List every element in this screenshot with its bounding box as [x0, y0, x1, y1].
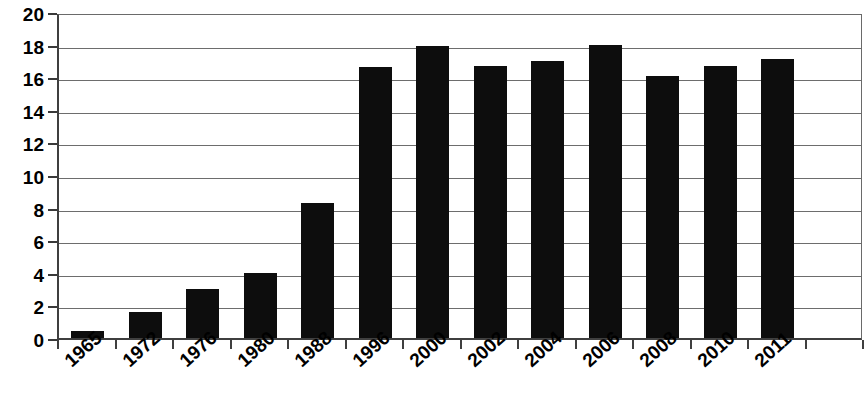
bar	[474, 66, 507, 338]
y-axis-tick-label: 6	[0, 233, 44, 252]
y-axis-tick-mark	[48, 339, 57, 341]
y-axis-tick-label: 12	[0, 135, 44, 154]
y-axis-tick-mark	[48, 176, 57, 178]
bar	[761, 59, 794, 338]
y-axis: 02468101214161820	[0, 0, 44, 418]
bar	[244, 273, 277, 338]
y-axis-tick-label: 0	[0, 331, 44, 350]
y-axis-tick-label: 2	[0, 298, 44, 317]
bar	[531, 61, 564, 338]
bar	[416, 46, 449, 338]
y-axis-tick-mark	[48, 143, 57, 145]
y-axis-tick-mark	[48, 306, 57, 308]
y-axis-tick-mark	[48, 209, 57, 211]
y-axis-tick-mark	[48, 46, 57, 48]
bars-layer	[59, 15, 861, 338]
y-axis-tick-mark	[48, 78, 57, 80]
bar	[646, 76, 679, 338]
y-axis-tick-label: 8	[0, 200, 44, 219]
y-axis-tick-label: 10	[0, 168, 44, 187]
bar	[704, 66, 737, 338]
y-axis-tick-mark	[48, 111, 57, 113]
bar	[301, 203, 334, 338]
plot-area	[57, 14, 862, 340]
y-axis-tick-mark	[48, 274, 57, 276]
y-axis-tick-mark	[48, 13, 57, 15]
y-axis-tick-mark	[48, 241, 57, 243]
y-axis-tick-label: 14	[0, 102, 44, 121]
bar-chart: 02468101214161820 1965197219761980198819…	[0, 0, 868, 418]
x-axis: 1965197219761980198819962000200220042006…	[57, 348, 863, 418]
y-axis-tick-label: 20	[0, 5, 44, 24]
bar	[589, 45, 622, 338]
y-axis-tick-label: 4	[0, 265, 44, 284]
bar	[359, 67, 392, 338]
y-axis-tick-label: 16	[0, 70, 44, 89]
y-axis-tick-label: 18	[0, 37, 44, 56]
